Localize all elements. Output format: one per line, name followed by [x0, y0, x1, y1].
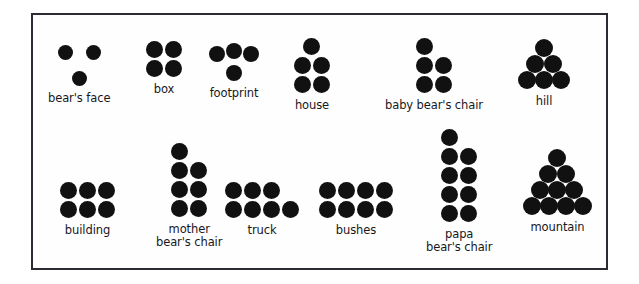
dot-cluster: [518, 39, 570, 89]
group-label: box: [154, 83, 175, 96]
dot-cluster: [523, 149, 592, 215]
group-label: mother bear's chair: [156, 223, 222, 249]
dot-group-bushes: bushes: [319, 182, 393, 237]
dot: [460, 167, 477, 184]
dot: [79, 201, 96, 218]
dot: [303, 38, 320, 55]
dot: [441, 148, 458, 165]
dot-cluster: [294, 38, 330, 93]
dot: [523, 197, 541, 215]
dot: [460, 148, 477, 165]
group-label: bushes: [336, 224, 376, 237]
dot-cluster: [60, 182, 115, 218]
dot: [165, 41, 182, 58]
dot: [244, 182, 261, 199]
group-label: building: [65, 224, 110, 237]
dot: [209, 46, 225, 62]
dot-cluster: [58, 45, 101, 86]
dot: [313, 76, 330, 93]
dot: [460, 186, 477, 203]
dot: [357, 201, 374, 218]
dot: [146, 41, 163, 58]
dot: [557, 197, 575, 215]
dot: [165, 60, 182, 77]
group-label: footprint: [210, 87, 259, 100]
dot: [518, 71, 536, 89]
dot: [225, 201, 242, 218]
dot: [294, 76, 311, 93]
dot: [190, 181, 207, 198]
dot: [190, 162, 207, 179]
dot: [190, 200, 207, 217]
figure-canvas: bear's faceboxfootprinthousebaby bear's …: [0, 0, 639, 284]
dot: [171, 181, 188, 198]
dot: [416, 57, 433, 74]
dot: [319, 182, 336, 199]
dot: [263, 201, 280, 218]
group-label: bear's face: [48, 92, 110, 105]
group-label: baby bear's chair: [385, 99, 483, 112]
dot: [416, 38, 433, 55]
dot: [441, 129, 458, 146]
dot: [244, 201, 261, 218]
dot: [319, 201, 336, 218]
dot: [226, 65, 242, 81]
dot: [171, 143, 188, 160]
dot: [357, 182, 374, 199]
dot: [416, 76, 433, 93]
dot: [338, 201, 355, 218]
dot: [338, 182, 355, 199]
dot-group-box: box: [146, 41, 182, 96]
dot-group-building: building: [60, 182, 115, 237]
dot: [60, 201, 77, 218]
dot: [460, 205, 477, 222]
group-label: mountain: [530, 221, 584, 234]
dot: [540, 197, 558, 215]
dot-group-hill: hill: [518, 39, 570, 108]
dot: [146, 60, 163, 77]
dot-group-house: house: [294, 38, 330, 112]
dot: [98, 201, 115, 218]
dot: [243, 46, 259, 62]
dot-group-papa-bears-chair: papa bear's chair: [426, 129, 492, 254]
dot-cluster: [146, 41, 182, 77]
dot-cluster: [209, 43, 259, 81]
figure-border: bear's faceboxfootprinthousebaby bear's …: [31, 13, 608, 270]
dot: [294, 57, 311, 74]
dot-group-mother-bears-chair: mother bear's chair: [156, 143, 222, 249]
dot: [441, 205, 458, 222]
dot-group-mountain: mountain: [523, 149, 592, 234]
dot: [79, 182, 96, 199]
dot-cluster: [416, 38, 452, 93]
dot: [313, 57, 330, 74]
dot-group-footprint: footprint: [209, 43, 259, 100]
dot-group-truck: truck: [225, 182, 299, 237]
dot: [58, 45, 73, 60]
dot: [263, 182, 280, 199]
dot: [376, 201, 393, 218]
dot: [552, 71, 570, 89]
group-label: truck: [247, 224, 276, 237]
group-label: hill: [536, 95, 552, 108]
dot-cluster: [171, 143, 207, 217]
dot-cluster: [319, 182, 393, 218]
dot-group-bears-face: bear's face: [48, 45, 110, 105]
dot: [171, 200, 188, 217]
dot-group-baby-bears-chair: baby bear's chair: [385, 38, 483, 112]
dot: [225, 182, 242, 199]
dot: [435, 57, 452, 74]
dot: [574, 197, 592, 215]
group-label: house: [295, 99, 329, 112]
dot: [376, 182, 393, 199]
dot: [435, 76, 452, 93]
dot-cluster: [441, 129, 477, 222]
dot: [171, 162, 188, 179]
dot: [60, 182, 77, 199]
dot: [86, 45, 101, 60]
dot: [72, 71, 87, 86]
group-label: papa bear's chair: [426, 228, 492, 254]
dot: [441, 186, 458, 203]
dot: [282, 201, 299, 218]
dot: [535, 71, 553, 89]
dot: [441, 167, 458, 184]
